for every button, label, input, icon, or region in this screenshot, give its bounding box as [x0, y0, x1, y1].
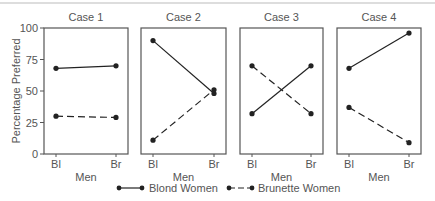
- data-point-marker: [346, 66, 351, 71]
- x-tick-label: Bl: [51, 158, 61, 170]
- data-point-marker: [150, 38, 155, 43]
- x-tick-label: Bl: [344, 158, 354, 170]
- x-axis-label: Men: [368, 171, 389, 183]
- panel-case-3: Case 3BlBrMen: [240, 11, 323, 183]
- series-line-blond: [349, 33, 409, 68]
- data-point-marker: [406, 30, 411, 35]
- legend-label: Brunette Women: [258, 182, 340, 194]
- panel-title: Case 4: [362, 11, 397, 23]
- panel-case-1: Case 1BlBrMen: [44, 11, 128, 183]
- panel-title: Case 2: [166, 11, 201, 23]
- panel-case-2: Case 2BlBrMen: [141, 11, 226, 183]
- series-line-blond: [153, 41, 214, 94]
- legend-marker-icon: [227, 186, 232, 191]
- legend: Blond WomenBrunette Women: [117, 182, 341, 194]
- y-tick-label: 100: [20, 22, 38, 34]
- y-tick-label: 75: [26, 54, 38, 66]
- y-axis-label: Percentage Preferred: [10, 38, 22, 143]
- series-line-brunette: [153, 90, 214, 140]
- panel-title: Case 1: [69, 11, 104, 23]
- panel-title: Case 3: [264, 11, 299, 23]
- data-point-marker: [249, 111, 254, 116]
- x-tick-label: Br: [111, 158, 122, 170]
- series-line-brunette: [349, 107, 409, 142]
- x-tick-label: Br: [404, 158, 415, 170]
- panels: Case 1BlBrMenCase 2BlBrMenCase 3BlBrMenC…: [44, 11, 421, 183]
- x-tick-label: Bl: [247, 158, 257, 170]
- data-point-marker: [346, 105, 351, 110]
- y-axis: 0255075100: [20, 22, 44, 160]
- data-point-marker: [308, 63, 313, 68]
- series-line-blond: [56, 66, 116, 69]
- panel-case-4: Case 4BlBrMen: [337, 11, 421, 183]
- x-tick-label: Br: [209, 158, 220, 170]
- panel-frame: [337, 28, 421, 154]
- x-tick-label: Br: [306, 158, 317, 170]
- data-point-marker: [113, 115, 118, 120]
- data-point-marker: [113, 63, 118, 68]
- legend-marker-icon: [140, 186, 145, 191]
- series-line-brunette: [56, 116, 116, 117]
- legend-marker-icon: [117, 186, 122, 191]
- x-tick-label: Bl: [148, 158, 158, 170]
- interaction-chart: 0255075100 Percentage Preferred Case 1Bl…: [0, 0, 435, 201]
- legend-item-blond: Blond Women: [117, 182, 218, 194]
- legend-label: Blond Women: [149, 182, 218, 194]
- data-point-marker: [53, 114, 58, 119]
- data-point-marker: [53, 66, 58, 71]
- data-point-marker: [211, 87, 216, 92]
- x-axis-label: Men: [75, 171, 96, 183]
- y-tick-label: 0: [32, 148, 38, 160]
- legend-item-brunette: Brunette Women: [227, 182, 341, 194]
- panel-frame: [240, 28, 323, 154]
- data-point-marker: [249, 63, 254, 68]
- data-point-marker: [406, 140, 411, 145]
- panel-frame: [44, 28, 128, 154]
- y-tick-label: 50: [26, 85, 38, 97]
- data-point-marker: [308, 111, 313, 116]
- data-point-marker: [150, 138, 155, 143]
- y-tick-label: 25: [26, 117, 38, 129]
- legend-marker-icon: [250, 186, 255, 191]
